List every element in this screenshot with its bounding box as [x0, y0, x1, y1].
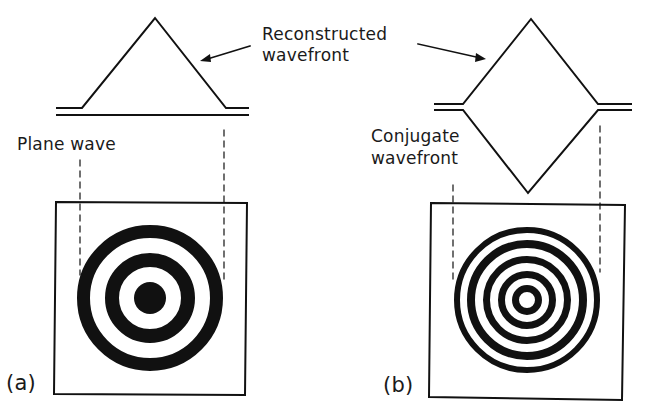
reconstructed-wavefront-label-line2: wavefront: [262, 45, 349, 65]
zone-plate-a: [84, 232, 217, 365]
reconstructed-wavefront-a: [57, 18, 248, 108]
plane-wave-label: Plane wave: [17, 134, 116, 154]
arrow-to-wavefront-b: [418, 44, 481, 58]
reconstructed-wavefront-b: [435, 19, 631, 104]
arrow-to-wavefront-a: [204, 46, 250, 60]
panel-label-a: (a): [6, 373, 36, 393]
conjugate-wavefront-label-line2: wavefront: [371, 148, 458, 168]
conjugate-wavefront: [435, 110, 631, 193]
conjugate-wavefront-label-line1: Conjugate: [371, 126, 460, 146]
figure: Reconstructed wavefront Plane wave Conju…: [0, 0, 645, 417]
panel-label-b: (b): [383, 375, 413, 395]
arrowhead-a: [200, 54, 211, 62]
zone-plate-b: [457, 230, 597, 370]
arrowhead-b: [475, 53, 486, 62]
reconstructed-wavefront-label-line1: Reconstructed: [262, 24, 387, 44]
